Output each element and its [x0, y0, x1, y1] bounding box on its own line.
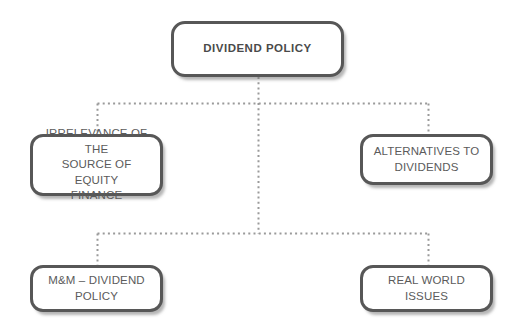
node-mm-dividend-label: M&M – DIVIDEND POLICY — [48, 273, 145, 304]
dividend-policy-diagram: DIVIDEND POLICY IRRELEVANCE OF THE SOURC… — [0, 0, 519, 336]
node-alternatives-to-dividends[interactable]: ALTERNATIVES TO DIVIDENDS — [360, 134, 493, 185]
node-dividend-policy-label: DIVIDEND POLICY — [203, 41, 311, 57]
node-irrelevance-label: IRRELEVANCE OF THE SOURCE OF EQUITY FINA… — [39, 126, 154, 204]
node-alternatives-label: ALTERNATIVES TO DIVIDENDS — [374, 144, 480, 175]
node-real-world-label: REAL WORLD ISSUES — [388, 273, 465, 304]
node-dividend-policy[interactable]: DIVIDEND POLICY — [171, 21, 344, 77]
node-mm-dividend-policy[interactable]: M&M – DIVIDEND POLICY — [30, 265, 163, 312]
node-irrelevance-of-source-of-equity-finance[interactable]: IRRELEVANCE OF THE SOURCE OF EQUITY FINA… — [30, 134, 163, 196]
node-real-world-issues[interactable]: REAL WORLD ISSUES — [360, 265, 493, 312]
